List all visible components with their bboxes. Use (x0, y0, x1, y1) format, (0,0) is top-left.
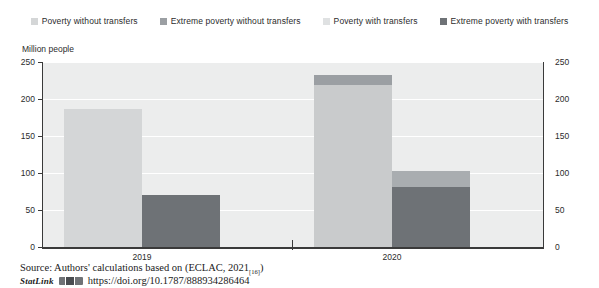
y-axis-tick (38, 210, 42, 211)
y-axis-tick (38, 173, 42, 174)
square-swatch-icon (31, 18, 38, 25)
y-axis-right-tick-label: 150 (555, 132, 569, 141)
bar-2019-poverty-without-transfers (64, 109, 142, 247)
chart-plot-frame: 250 200 150 100 50 0 250 200 150 100 50 … (42, 62, 544, 248)
legend-item-extreme-poverty-without-transfers: Extreme poverty without transfers (160, 16, 301, 26)
y-axis-right-tick-label: 50 (555, 206, 564, 215)
y-axis-tick-label: 0 (30, 243, 35, 252)
y-axis-left-spine (42, 62, 43, 248)
y-axis-tick (38, 136, 42, 137)
y-axis-right-spine (543, 62, 544, 248)
gridline (42, 99, 544, 100)
bar-2020-poverty-with-transfers (314, 85, 392, 247)
y-axis-tick-label: 100 (21, 169, 35, 178)
x-axis-category-label-2019: 2019 (112, 252, 172, 262)
x-axis-spine (42, 247, 544, 249)
square-swatch-icon (440, 18, 447, 25)
legend-item-poverty-without-transfers: Poverty without transfers (31, 16, 138, 26)
y-axis-tick-label: 200 (21, 95, 35, 104)
source-reference-marker: [16] (249, 268, 260, 275)
source-text: Source: Authors' calculations based on (… (20, 262, 249, 273)
y-axis-tick (38, 62, 42, 63)
y-axis-tick-label: 250 (21, 58, 35, 67)
square-swatch-icon (160, 18, 167, 25)
legend-item-label: Poverty with transfers (334, 16, 418, 26)
y-axis-right-tick-label: 250 (555, 58, 569, 67)
legend-item-label: Extreme poverty with transfers (451, 16, 569, 26)
y-axis-tick (38, 99, 42, 100)
x-axis-group-divider-tick (292, 240, 293, 250)
bar-2020-extreme-poverty-with-transfers (392, 187, 470, 247)
legend-item-poverty-with-transfers: Poverty with transfers (323, 16, 418, 26)
legend-item-extreme-poverty-with-transfers: Extreme poverty with transfers (440, 16, 569, 26)
y-axis-title: Million people (22, 44, 74, 54)
x-axis-category-label-2020: 2020 (362, 252, 422, 262)
statlink-doi-link[interactable]: https://doi.org/10.1787/888934286464 (88, 275, 250, 286)
y-axis-tick-label: 50 (26, 206, 35, 215)
y-axis-tick (38, 247, 42, 248)
source-text-suffix: ) (260, 262, 264, 273)
bar-2019-extreme-poverty-without-transfers (142, 195, 220, 247)
statlink-label: StatLink (20, 276, 54, 286)
statlink-row[interactable]: StatLink https://doi.org/10.1787/8889342… (20, 275, 250, 286)
chart-source-note: Source: Authors' calculations based on (… (20, 262, 263, 275)
y-axis-tick-label: 150 (21, 132, 35, 141)
statlink-barcode-icon (59, 277, 83, 285)
legend-item-label: Extreme poverty without transfers (171, 16, 301, 26)
y-axis-right-tick-label: 100 (555, 169, 569, 178)
y-axis-right-tick-label: 200 (555, 95, 569, 104)
chart-legend: Poverty without transfers Extreme povert… (0, 10, 599, 32)
gridline (42, 62, 544, 63)
legend-item-label: Poverty without transfers (42, 16, 138, 26)
y-axis-right-tick-label: 0 (555, 243, 560, 252)
square-swatch-icon (323, 18, 330, 25)
